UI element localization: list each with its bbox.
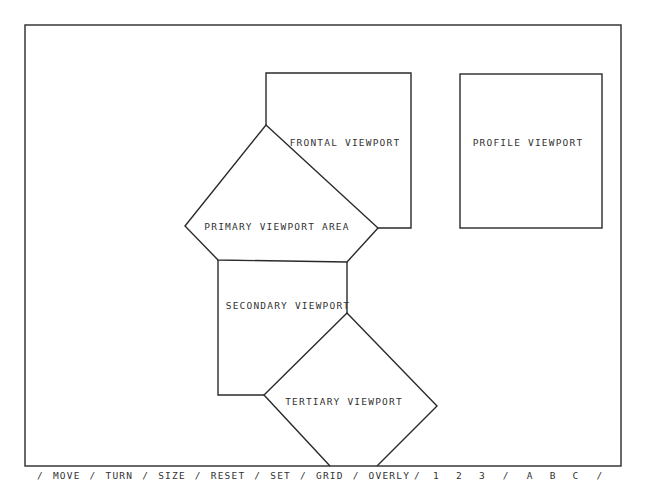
menu-overlay-button[interactable]: OVERLY [369,470,411,481]
menu-option-2-button[interactable]: 2 [456,470,463,481]
profile-viewport-outline[interactable] [460,74,602,228]
profile-viewport-label: PROFILE VIEWPORT [473,137,584,148]
menu-separator: / [142,470,149,481]
menu-separator: / [414,470,421,481]
frontal-viewport-label: FRONTAL VIEWPORT [290,137,401,148]
menu-option-3-button[interactable]: 3 [479,470,486,481]
menu-set-button[interactable]: SET [270,470,291,481]
frontal-viewport-outline[interactable] [266,73,411,228]
menu-separator: / [596,470,603,481]
menu-size-button[interactable]: SIZE [158,470,186,481]
menu-separator: / [300,470,307,481]
menu-option-1-button[interactable]: 1 [433,470,440,481]
menu-separator: / [37,470,44,481]
secondary-viewport-label: SECONDARY VIEWPORT [226,300,351,311]
menu-separator: / [254,470,261,481]
menu-move-button[interactable]: MOVE [53,470,81,481]
drawing-canvas [0,0,646,503]
menu-option-b-button[interactable]: B [550,470,557,481]
menu-separator: / [353,470,360,481]
menu-reset-button[interactable]: RESET [211,470,246,481]
command-menu-bar: / MOVE / TURN / SIZE / RESET / SET / GRI… [28,468,612,482]
primary-viewport-label: PRIMARY VIEWPORT AREA [204,221,349,232]
menu-separator: / [503,470,510,481]
menu-turn-button[interactable]: TURN [106,470,134,481]
menu-separator: / [195,470,202,481]
tertiary-viewport-outline[interactable] [264,313,437,466]
menu-option-c-button[interactable]: C [573,470,580,481]
secondary-viewport-outline[interactable] [218,260,264,395]
menu-grid-button[interactable]: GRID [316,470,344,481]
menu-option-a-button[interactable]: A [527,470,534,481]
tertiary-viewport-label: TERTIARY VIEWPORT [285,396,403,407]
menu-separator: / [90,470,97,481]
